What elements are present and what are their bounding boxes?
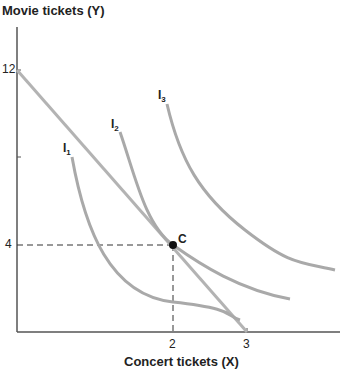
y-tick-label-12: 12	[2, 62, 15, 76]
point-c-marker	[169, 241, 177, 249]
x-tick-label-2: 2	[169, 337, 176, 351]
x-tick-label-3: 3	[243, 337, 250, 351]
x-axis-label: Concert tickets (X)	[124, 354, 239, 369]
curve-label-i3: I3	[158, 88, 166, 104]
indifference-curve-i3	[167, 104, 335, 270]
y-tick-label-4: 4	[5, 237, 12, 251]
point-c-label: C	[178, 232, 187, 246]
curve-label-i2: I2	[111, 117, 119, 133]
curve-label-i1: I1	[63, 141, 71, 157]
indifference-chart	[0, 0, 342, 374]
